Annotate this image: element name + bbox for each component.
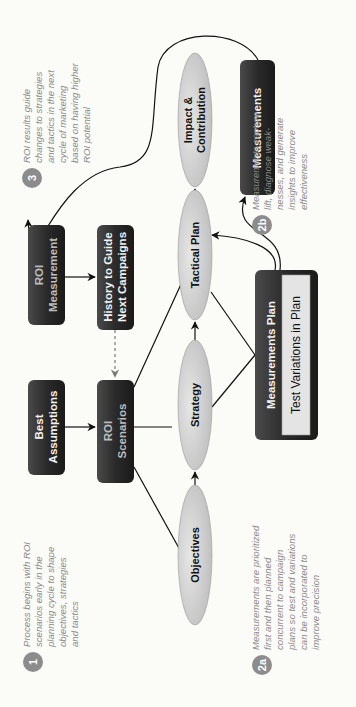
ellipse-label: Strategy [189, 382, 201, 427]
inner-box-label: Test Variations in Plan [289, 296, 303, 414]
badge-label: 2b [256, 218, 268, 231]
note-line: first and then planned [262, 557, 273, 650]
box-roi-measurement: ROI Measurement [28, 225, 65, 325]
ellipse-tactical-plan: Tactical Plan [178, 190, 212, 320]
note-line: Measurements capture [250, 112, 261, 210]
box-label: Measurement [47, 238, 59, 312]
note-line: and tactics [69, 601, 80, 647]
note-line: cycle of marketing [57, 85, 68, 163]
box-roi-scenarios: ROI Scenarios [97, 380, 134, 483]
roi-process-diagram: ROI Measurement History to Guide Next Ca… [0, 0, 356, 707]
box-label: Best [33, 414, 45, 439]
box-label: Next Campaigns [116, 232, 128, 322]
note-line: Process begins with ROI [21, 542, 32, 647]
note-2b: 2b Measurements capture lift, diagnose w… [250, 112, 309, 235]
ellipse-impact: Impact & Contribution [178, 53, 212, 187]
badge-label: 1 [27, 659, 39, 665]
note-line: Measurements are prioritized [250, 525, 261, 650]
box-measurements-plan: Measurements Plan Test Variations in Pla… [255, 270, 318, 440]
note-line: changes to strategies [33, 72, 44, 163]
box-history: History to Guide Next Campaigns [97, 225, 134, 330]
box-label: ROI [33, 265, 45, 285]
note-line: improve precision [310, 575, 321, 650]
ellipse-label: Objectives [189, 527, 201, 583]
box-label: Scenarios [116, 404, 128, 459]
note-line: effectiveness [298, 154, 309, 210]
note-line: planning cycle to shape [45, 547, 56, 648]
note-line: ROI results guide [21, 89, 32, 163]
ellipse-label: Tactical Plan [189, 222, 201, 289]
box-best-assumptions: Best Assumptions [28, 380, 65, 475]
note-1: 1 Process begins with ROI scenarios earl… [21, 542, 80, 672]
note-line: nesses, and generate [274, 118, 285, 210]
box-label: Assumptions [47, 391, 59, 464]
badge-label: 2a [256, 658, 268, 671]
note-line: based on having higher [69, 62, 80, 163]
note-2a: 2a Measurements are prioritized first an… [250, 525, 321, 675]
ellipse-strategy: Strategy [178, 340, 212, 470]
box-label: ROI [102, 421, 114, 441]
ellipse-label: Impact & [182, 97, 194, 144]
note-line: can be incorporated to [298, 554, 309, 650]
note-line: and tactics in the next [45, 70, 56, 163]
badge-label: 3 [26, 175, 38, 181]
ellipse-label: Contribution [195, 87, 207, 153]
box-label: Measurements Plan [265, 301, 277, 409]
ellipse-objectives: Objectives [178, 485, 212, 625]
note-3: 3 ROI results guide changes to strategie… [21, 62, 92, 188]
note-line: scenarios early in the [33, 556, 44, 647]
box-label: History to Guide [102, 232, 114, 321]
note-line: objectives, strategies [57, 557, 68, 647]
note-line: lift, diagnose weak- [262, 128, 273, 210]
note-line: insights to improve [286, 130, 297, 210]
note-line: ROI potential [81, 106, 92, 163]
note-line: plans so test and variations [286, 534, 297, 651]
note-line: concurrent to campaign [274, 550, 285, 650]
